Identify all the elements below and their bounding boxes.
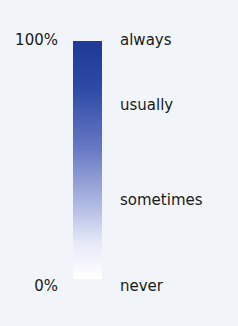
- level-never: never: [120, 277, 163, 295]
- axis-min-label: 0%: [0, 277, 58, 295]
- level-sometimes: sometimes: [120, 191, 203, 209]
- gradient-bar: [73, 41, 102, 279]
- axis-max-label: 100%: [0, 31, 58, 49]
- level-always: always: [120, 31, 172, 49]
- level-usually: usually: [120, 96, 173, 114]
